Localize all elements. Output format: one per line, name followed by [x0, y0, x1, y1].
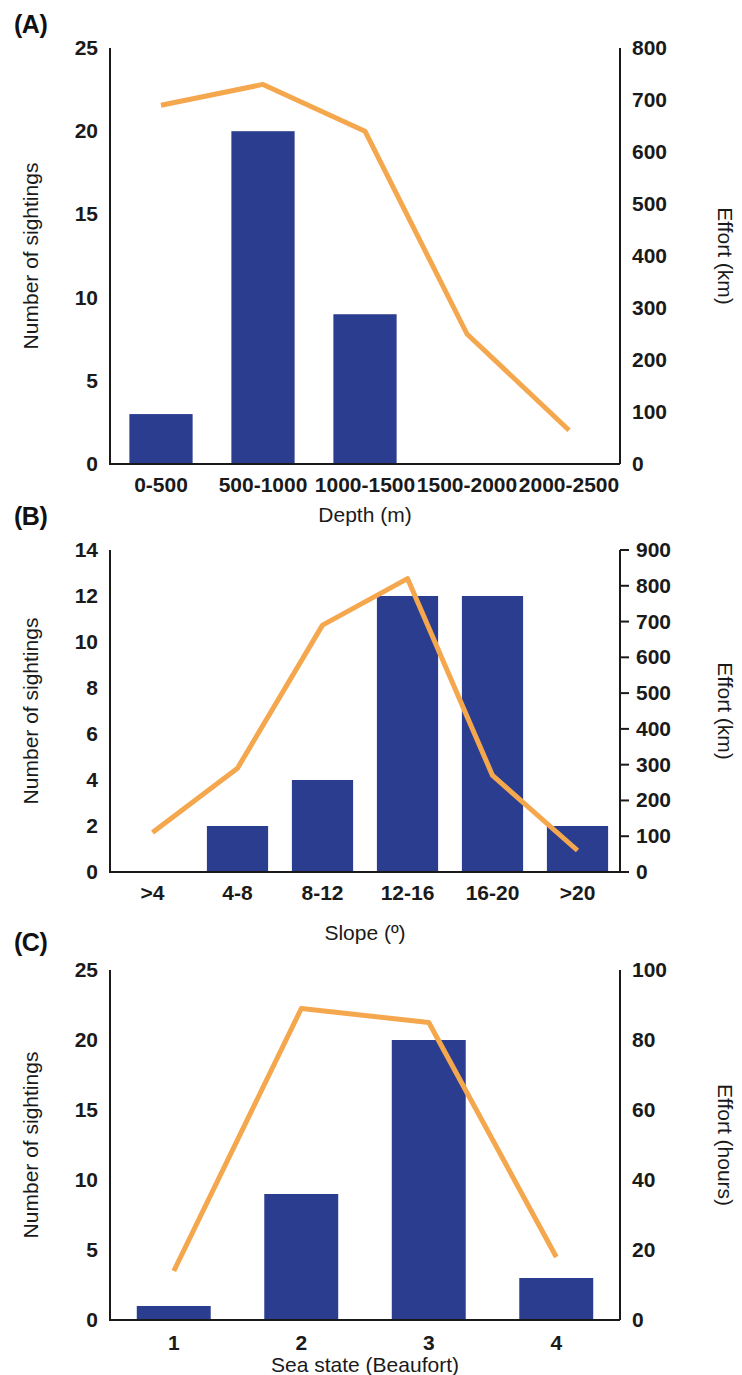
panel-c-letter: (C) — [14, 928, 47, 957]
left-tick-label: 0 — [86, 1308, 98, 1331]
left-tick-label: 15 — [75, 202, 99, 225]
bar-3 — [392, 1040, 466, 1320]
panel-c-chart: Slope (º)05101520250204060801001234Numbe… — [0, 912, 742, 1375]
bar-series — [129, 131, 396, 464]
right-tick-label: 100 — [632, 400, 667, 423]
right-tick-labels: 020406080100 — [632, 958, 667, 1331]
category-label-2: 4-8 — [222, 881, 253, 904]
left-tick-label: 0 — [86, 452, 98, 475]
bar-1 — [137, 1306, 211, 1320]
right-tick-label: 500 — [636, 681, 671, 704]
left-tick-label: 0 — [86, 860, 98, 883]
right-tick-label: 700 — [632, 88, 667, 111]
right-tick-label: 40 — [632, 1168, 655, 1191]
right-tick-label: 400 — [636, 717, 671, 740]
left-tick-label: 15 — [75, 1098, 99, 1121]
bar-series — [137, 1040, 593, 1320]
right-tick-label: 200 — [636, 788, 671, 811]
bar-4 — [519, 1278, 593, 1320]
right-tick-label: 100 — [632, 958, 667, 981]
right-tick-label: 800 — [636, 574, 671, 597]
right-tick-labels: 0100200300400500600700800900 — [620, 538, 671, 883]
category-labels: 1234 — [168, 1331, 563, 1354]
category-label-1: 1 — [168, 1331, 180, 1354]
bar-3 — [333, 314, 396, 464]
bar-2 — [207, 826, 268, 872]
category-label-5: 2000-2500 — [519, 473, 619, 496]
right-tick-label: 0 — [636, 860, 648, 883]
panel-a-letter: (A) — [14, 10, 47, 39]
x-axis-title-b: Slope (º) — [324, 921, 405, 944]
panel-b: (B) Depth (m)024681012140100200300400500… — [0, 500, 742, 912]
bar-5 — [462, 596, 523, 872]
left-tick-labels: 0510152025 — [75, 36, 99, 475]
right-tick-label: 100 — [636, 824, 671, 847]
right-tick-label: 600 — [636, 645, 671, 668]
category-label-2: 2 — [295, 1331, 307, 1354]
x-axis-title-c: Sea state (Beaufort) — [271, 1353, 459, 1375]
category-label-4: 4 — [550, 1331, 562, 1354]
panel-b-plot: 024681012140100200300400500600700800900>… — [19, 538, 737, 904]
panel-c-plot: 05101520250204060801001234Number of sigh… — [19, 958, 737, 1354]
panel-a-plot: 051015202501002003004005006007008000-500… — [19, 36, 737, 496]
left-axis-spine — [110, 970, 620, 1320]
left-tick-label: 20 — [75, 119, 98, 142]
left-tick-labels: 02468101214 — [75, 538, 99, 883]
category-label-3: 3 — [423, 1331, 435, 1354]
panel-b-chart: Depth (m)0246810121401002003004005006007… — [0, 500, 742, 912]
left-tick-label: 5 — [86, 1238, 98, 1261]
panel-c: (C) Slope (º)05101520250204060801001234N… — [0, 912, 742, 1375]
left-tick-label: 4 — [86, 768, 98, 791]
right-tick-label: 900 — [636, 538, 671, 561]
right-tick-label: 80 — [632, 1028, 655, 1051]
bar-2 — [231, 131, 294, 464]
right-tick-label: 800 — [632, 36, 667, 59]
left-axis-title: Number of sightings — [19, 1052, 42, 1239]
right-tick-label: 0 — [632, 1308, 644, 1331]
left-tick-label: 2 — [86, 814, 98, 837]
category-label-4: 12-16 — [381, 881, 435, 904]
right-tick-label: 300 — [636, 753, 671, 776]
left-tick-label: 25 — [75, 958, 99, 981]
category-label-1: 0-500 — [134, 473, 188, 496]
right-axis-title: Effort (hours) — [714, 1084, 737, 1206]
bar-series — [207, 596, 608, 872]
left-tick-label: 5 — [86, 369, 98, 392]
category-label-6: >20 — [560, 881, 596, 904]
right-tick-labels: 0100200300400500600700800 — [632, 36, 667, 475]
category-labels: 0-500500-10001000-15001500-20002000-2500 — [134, 473, 619, 496]
right-tick-label: 0 — [632, 452, 644, 475]
category-label-4: 1500-2000 — [417, 473, 517, 496]
left-tick-label: 10 — [75, 1168, 98, 1191]
right-tick-label: 20 — [632, 1238, 655, 1261]
x-axis-title-a: Depth (m) — [318, 503, 411, 526]
left-tick-label: 8 — [86, 676, 98, 699]
panel-a-chart: 051015202501002003004005006007008000-500… — [0, 0, 742, 500]
left-tick-label: 12 — [75, 584, 98, 607]
bar-2 — [264, 1194, 338, 1320]
right-tick-label: 700 — [636, 610, 671, 633]
panel-a: (A) 051015202501002003004005006007008000… — [0, 0, 742, 500]
right-tick-label: 600 — [632, 140, 667, 163]
category-labels: >44-88-1212-1616-20>20 — [141, 881, 596, 904]
category-label-3: 1000-1500 — [315, 473, 415, 496]
left-axis-title: Number of sightings — [19, 163, 42, 350]
left-tick-label: 10 — [75, 630, 98, 653]
panel-b-letter: (B) — [14, 502, 47, 531]
right-tick-label: 400 — [632, 244, 667, 267]
category-label-3: 8-12 — [301, 881, 343, 904]
right-tick-label: 300 — [632, 296, 667, 319]
left-tick-label: 10 — [75, 286, 98, 309]
category-label-5: 16-20 — [466, 881, 520, 904]
left-axis-title: Number of sightings — [19, 618, 42, 805]
right-tick-label: 200 — [632, 348, 667, 371]
right-axis-title: Effort (km) — [714, 207, 737, 305]
left-tick-label: 14 — [75, 538, 99, 561]
bar-4 — [377, 596, 438, 872]
left-tick-label: 25 — [75, 36, 99, 59]
left-tick-label: 6 — [86, 722, 98, 745]
category-label-2: 500-1000 — [219, 473, 308, 496]
left-tick-label: 20 — [75, 1028, 98, 1051]
figure-three-panel-chart: (A) 051015202501002003004005006007008000… — [0, 0, 742, 1375]
right-tick-label: 500 — [632, 192, 667, 215]
